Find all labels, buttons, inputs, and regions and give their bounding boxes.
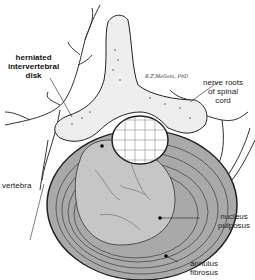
label-annulus-fibrosus: annulus fibrosus bbox=[190, 259, 218, 277]
label-line: nerve roots bbox=[203, 78, 243, 87]
label-line: fibrosus bbox=[190, 268, 218, 277]
label-nucleus-pulposus: nucleus pulposus bbox=[218, 212, 250, 230]
label-line: herniated bbox=[8, 53, 59, 62]
label-line: cord bbox=[203, 96, 243, 105]
label-line: pulposus bbox=[218, 221, 250, 230]
artist-signature: B.Z.Melloni, PhD bbox=[145, 73, 188, 79]
label-line: intervertebral bbox=[8, 62, 59, 71]
spine-cross-section-drawing bbox=[0, 0, 255, 280]
anatomy-illustration: herniated intervertebral disk B.Z.Mellon… bbox=[0, 0, 255, 280]
label-vertebra: vertebra bbox=[2, 181, 31, 190]
label-line: of spinal bbox=[203, 87, 243, 96]
label-line: annulus bbox=[190, 259, 218, 268]
label-herniated-disk: herniated intervertebral disk bbox=[8, 53, 59, 80]
label-line: disk bbox=[8, 71, 59, 80]
label-nerve-roots: nerve roots of spinal cord bbox=[203, 78, 243, 105]
label-line: nucleus bbox=[218, 212, 250, 221]
